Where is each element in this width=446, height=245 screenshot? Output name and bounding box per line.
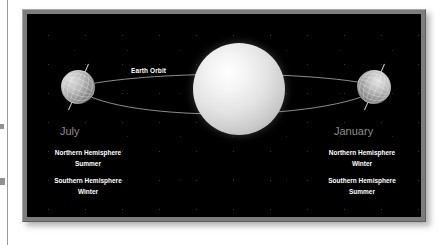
season-note-july-northern: Northern Hemisphere Summer: [29, 148, 147, 169]
season-note-january-southern: Southern Hemisphere Summer: [303, 176, 421, 197]
page-margin-rule: [7, 0, 8, 245]
figure-frame: Earth Orbit July January Northern Hemisp…: [22, 9, 426, 222]
page-margin-text-fragment-upper: [0, 124, 4, 129]
earth-sphere-july: [61, 70, 95, 104]
hemisphere-name: Southern Hemisphere: [29, 176, 147, 187]
earth-globe-july: [58, 67, 98, 107]
earth-graticule-january: [357, 70, 391, 104]
earth-sphere-january: [357, 70, 391, 104]
month-label-july: July: [60, 125, 80, 137]
page-margin-text-fragment-lower: [0, 178, 5, 185]
space-scene: Earth Orbit July January Northern Hemisp…: [27, 14, 421, 217]
hemisphere-name: Southern Hemisphere: [303, 176, 421, 187]
season-name: Summer: [303, 187, 421, 198]
hemisphere-name: Northern Hemisphere: [303, 148, 421, 159]
season-name: Summer: [29, 159, 147, 170]
season-note-january-northern: Northern Hemisphere Winter: [303, 148, 421, 169]
earth-graticule-july: [61, 70, 95, 104]
season-name: Winter: [29, 187, 147, 198]
earth-orbit-label: Earth Orbit: [131, 67, 166, 74]
season-name: Winter: [303, 159, 421, 170]
month-label-january: January: [334, 125, 373, 137]
hemisphere-name: Northern Hemisphere: [29, 148, 147, 159]
sun: [193, 43, 285, 135]
earth-globe-january: [354, 67, 394, 107]
season-note-july-southern: Southern Hemisphere Winter: [29, 176, 147, 197]
